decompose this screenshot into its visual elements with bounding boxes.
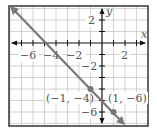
x-axis-label: x [141,28,148,41]
y-tick-label: −6 [81,106,97,119]
point-1-neg6 [111,109,117,115]
y-tick-label: 2 [88,14,95,27]
grid [9,6,148,126]
x-axis-arrow-right-icon [140,41,146,46]
coordinate-graph: −6 −4 −2 2 2 −2 −6 x y (−1, −4) (1, −6) [0,0,157,139]
x-axis-arrow-left-icon [11,41,17,46]
x-tick-label: −2 [66,49,82,62]
point-label: (−1, −4) [46,92,94,105]
x-tick-label: 2 [121,49,128,62]
x-tick-label: −6 [20,49,36,62]
y-axis-label: y [105,5,113,18]
y-tick-label: −2 [81,60,97,73]
point-label: (1, −6) [108,92,147,105]
